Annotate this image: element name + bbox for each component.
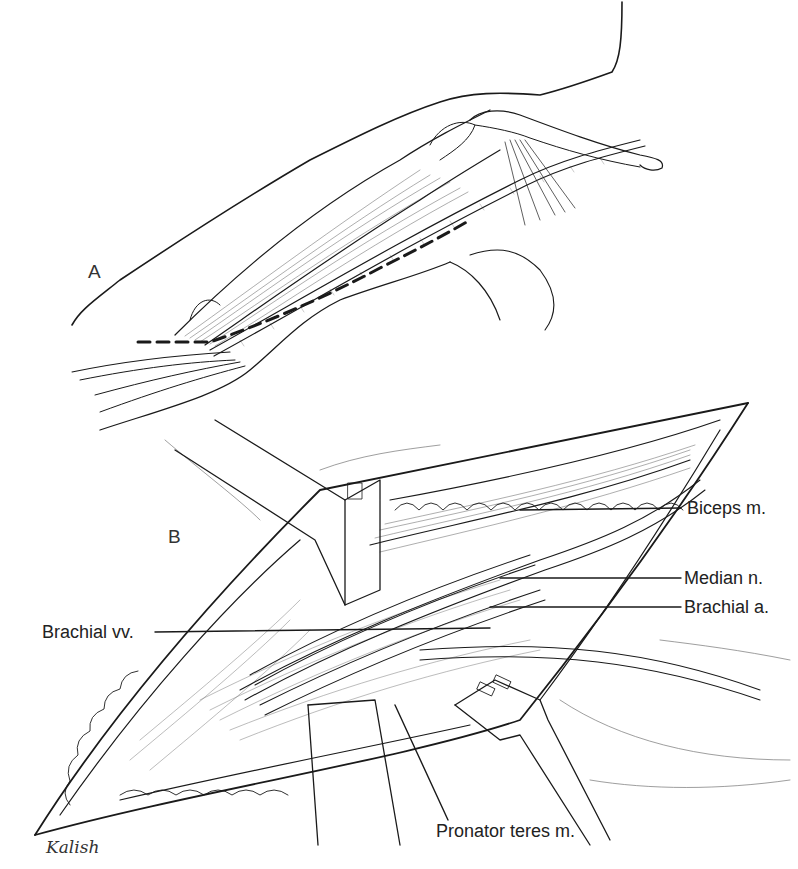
top-retractor <box>175 420 380 605</box>
label-biceps: Biceps m. <box>687 499 766 517</box>
right-retractor <box>455 675 610 845</box>
panel-b-drawing <box>35 403 790 845</box>
label-pronator-teres: Pronator teres m. <box>436 822 575 840</box>
panel-a-drawing <box>72 2 663 430</box>
label-median-nerve: Median n. <box>684 569 763 587</box>
panel-label-a: A <box>88 262 101 281</box>
label-brachial-artery: Brachial a. <box>684 598 769 616</box>
panel-label-b: B <box>168 527 181 546</box>
artist-signature: Kalish <box>46 837 99 857</box>
leader-lines <box>155 508 681 820</box>
bottom-retractor <box>308 700 400 845</box>
anatomical-illustration <box>0 0 798 869</box>
label-brachial-veins: Brachial vv. <box>42 623 134 641</box>
